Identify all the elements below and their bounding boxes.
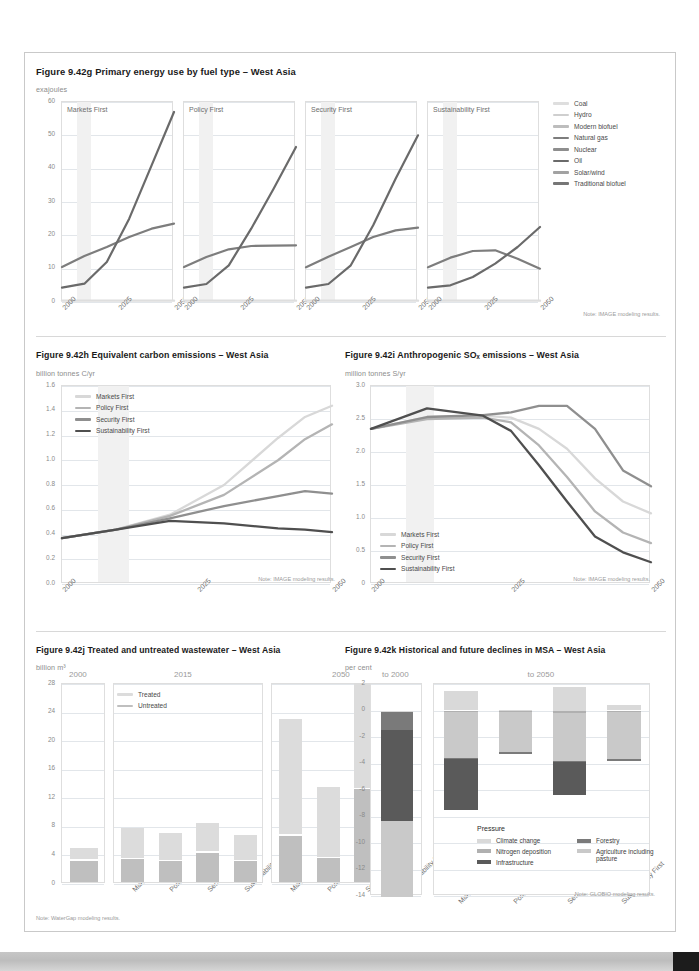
y-axis-tick-label: 0 bbox=[343, 706, 365, 712]
fig-h-legend-item: Security First bbox=[75, 416, 150, 423]
fig-j-legend-item: Treated bbox=[117, 691, 167, 698]
fig-g-legend-item: Solar/wind bbox=[553, 169, 626, 176]
fig-j-panel-label: 2000 bbox=[69, 670, 87, 679]
legend-swatch-icon bbox=[75, 430, 91, 433]
gridline bbox=[114, 684, 262, 685]
legend-label: Markets First bbox=[96, 393, 134, 400]
legend-swatch-icon bbox=[477, 860, 491, 864]
fig-g-legend-item: Traditional biofuel bbox=[553, 180, 626, 187]
gridline bbox=[62, 684, 104, 685]
gridline bbox=[62, 798, 104, 799]
legend-label: Climate change bbox=[496, 837, 540, 844]
gridline bbox=[114, 741, 262, 742]
bar-segment-untreated bbox=[70, 861, 97, 882]
stacked-bar bbox=[121, 828, 144, 882]
y-axis-tick-label: 0 bbox=[33, 880, 55, 886]
legend-swatch-icon bbox=[577, 839, 591, 843]
stacked-bar bbox=[279, 719, 302, 882]
gridline bbox=[184, 302, 294, 303]
fig-k-units: per cent bbox=[345, 663, 372, 672]
legend-swatch-icon bbox=[553, 148, 569, 151]
legend-label: Nuclear bbox=[574, 146, 597, 153]
y-axis-tick-label: -12 bbox=[343, 865, 365, 871]
legend-label: Solar/wind bbox=[574, 169, 605, 176]
legend-label: Agriculture including pasture bbox=[596, 848, 665, 863]
bar-segment-treated bbox=[196, 823, 219, 852]
bar-segment-treated bbox=[159, 833, 182, 859]
y-axis-tick-label: 4 bbox=[33, 851, 55, 857]
bar-segment-agriculture-including-pasture bbox=[607, 712, 641, 759]
legend-swatch-icon bbox=[553, 114, 569, 117]
fig-k-legend-item: Forestry bbox=[577, 837, 665, 844]
y-axis-tick-label: 60 bbox=[33, 98, 55, 104]
y-axis-tick-label: 20 bbox=[33, 737, 55, 743]
y-axis-tick-label: 1.0 bbox=[343, 514, 365, 520]
legend-swatch-icon bbox=[477, 839, 491, 843]
stacked-bar bbox=[234, 835, 257, 882]
fig-g-panel bbox=[183, 101, 295, 301]
legend-swatch-icon bbox=[380, 533, 396, 536]
y-axis-tick-label: 2.0 bbox=[343, 448, 365, 454]
line-oil bbox=[428, 227, 540, 288]
legend-label: Forestry bbox=[596, 837, 619, 844]
stacked-bar bbox=[70, 848, 97, 882]
legend-swatch-icon bbox=[117, 705, 133, 708]
line-policy-first bbox=[371, 418, 651, 543]
fig-i-legend-item: Security First bbox=[380, 554, 455, 561]
bar-segment-untreated bbox=[196, 853, 219, 882]
legend-label: Policy First bbox=[96, 404, 128, 411]
y-axis-tick-label: 40 bbox=[33, 164, 55, 170]
series-canvas bbox=[428, 102, 540, 302]
gridline bbox=[428, 302, 538, 303]
legend-swatch-icon bbox=[380, 556, 396, 559]
legend-label: Markets First bbox=[401, 531, 439, 538]
legend-column-right: ForestryAgriculture including pasture bbox=[577, 837, 665, 870]
line-sustainability-first bbox=[62, 521, 332, 538]
legend-swatch-icon bbox=[380, 568, 396, 571]
legend-swatch-icon bbox=[553, 160, 569, 163]
bar-segment-climate-change bbox=[444, 691, 478, 710]
bar-segment-untreated bbox=[279, 836, 302, 882]
bar-segment-agriculture-including-pasture bbox=[381, 821, 413, 897]
fig-g-legend-item: Modern biofuel bbox=[553, 123, 626, 130]
y-axis-tick-label: -4 bbox=[343, 759, 365, 765]
legend-swatch-icon bbox=[117, 693, 133, 696]
y-axis-tick-label: -8 bbox=[343, 812, 365, 818]
bar-segment-forestry bbox=[381, 712, 413, 730]
series-canvas bbox=[62, 102, 174, 302]
fig-h-units: billion tonnes C/yr bbox=[36, 369, 95, 378]
y-axis-tick-label: 2 bbox=[343, 680, 365, 686]
fig-h-note: Note: IMAGE modeling results. bbox=[215, 576, 335, 582]
line-oil bbox=[184, 147, 296, 288]
gridline bbox=[62, 884, 104, 885]
series-canvas bbox=[306, 102, 418, 302]
bar-segment-agriculture-including-pasture bbox=[499, 712, 533, 752]
fig-g-panel bbox=[427, 101, 539, 301]
fig-g-note: Note: IMAGE modeling results. bbox=[525, 311, 660, 317]
legend-label: Treated bbox=[138, 691, 160, 698]
fig-j-title: Figure 9.42j Treated and untreated waste… bbox=[36, 645, 281, 655]
y-axis-tick-label: 8 bbox=[33, 822, 55, 828]
gridline bbox=[62, 770, 104, 771]
fig-j-panel-label: 2015 bbox=[174, 670, 192, 679]
y-axis-tick-label: 1.4 bbox=[33, 406, 55, 412]
legend-label: Infrastructure bbox=[496, 859, 534, 866]
stacked-bar bbox=[196, 823, 219, 882]
y-axis-tick-label: 1.2 bbox=[33, 431, 55, 437]
bar-segment-untreated bbox=[234, 861, 257, 882]
legend-swatch-icon bbox=[553, 125, 569, 128]
y-axis-tick-label: 20 bbox=[33, 231, 55, 237]
legend-label: Security First bbox=[401, 554, 439, 561]
bar-segment-untreated bbox=[159, 861, 182, 882]
bar-segment-treated bbox=[279, 719, 302, 834]
gridline bbox=[371, 684, 421, 685]
bar-segment-treated bbox=[70, 848, 97, 859]
y-axis-tick-label: 3.0 bbox=[343, 382, 365, 388]
fig-g-legend-item: Coal bbox=[553, 100, 626, 107]
fig-i-legend-item: Markets First bbox=[380, 531, 455, 538]
legend-label: Oil bbox=[574, 157, 582, 164]
gridline bbox=[114, 770, 262, 771]
series-canvas bbox=[184, 102, 296, 302]
fig-g-title: Figure 9.42g Primary energy use by fuel … bbox=[36, 66, 296, 77]
line-oil bbox=[62, 112, 174, 288]
